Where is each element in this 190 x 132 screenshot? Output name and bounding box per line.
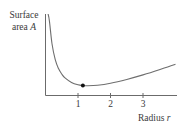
x-tick-label: 1 [76, 99, 81, 109]
x-tick-label: 2 [108, 99, 113, 109]
x-tick-label: 3 [141, 99, 146, 109]
minimum-point-marker [81, 84, 85, 88]
surface-area-curve [48, 14, 175, 86]
x-axis-label: Radius r [138, 113, 170, 123]
